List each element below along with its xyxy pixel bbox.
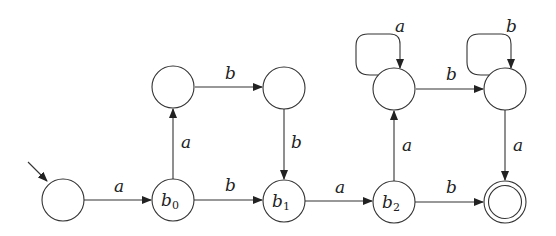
label-u2-u3: b xyxy=(446,64,457,84)
state-accept-inner xyxy=(489,186,522,219)
label-b2-qf: b xyxy=(446,177,457,197)
label-loop-u3: b xyxy=(506,16,517,36)
automaton-diagram: b0 b1 b2 a b a b a b b a a b b a xyxy=(0,0,556,236)
start-arrow xyxy=(28,162,47,181)
state-u2 xyxy=(373,68,415,110)
state-u0 xyxy=(152,66,194,108)
state-u1 xyxy=(263,67,305,109)
label-b1-b2: a xyxy=(335,177,345,197)
label-q0-b0: a xyxy=(114,176,124,196)
label-u0-u1: b xyxy=(225,63,236,83)
state-u3 xyxy=(484,68,526,110)
state-start xyxy=(42,179,84,221)
label-u3-qf: a xyxy=(513,135,523,155)
label-b0-b1: b xyxy=(225,175,236,195)
label-b0-u0: a xyxy=(181,132,191,152)
label-b2-u2: a xyxy=(402,135,412,155)
label-u1-b1: b xyxy=(291,132,302,152)
label-loop-u2: a xyxy=(395,16,405,36)
